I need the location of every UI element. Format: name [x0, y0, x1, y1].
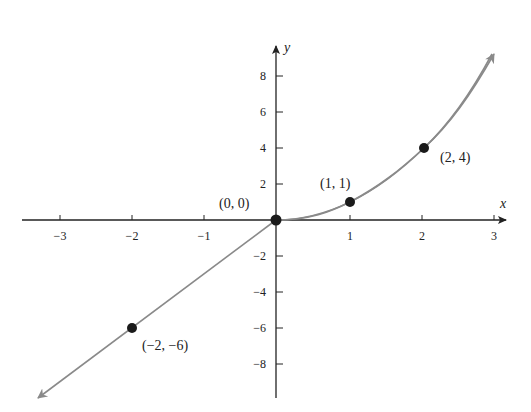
point-2-4	[419, 143, 429, 153]
point-neg2-neg6	[127, 323, 137, 333]
data-points	[127, 143, 429, 333]
y-tick-label: 2	[260, 177, 266, 191]
x-tick-label: −3	[54, 229, 67, 243]
point-1-1	[345, 197, 355, 207]
y-tick-label: 8	[260, 69, 266, 83]
point-label-neg2-neg6: (−2, −6)	[142, 338, 188, 354]
y-axis-label: y	[282, 40, 291, 55]
y-tick-label: −4	[253, 285, 266, 299]
point-origin	[271, 215, 282, 226]
x-tick-label: 2	[419, 229, 425, 243]
function-curve	[38, 54, 494, 398]
point-label-1-1: (1, 1)	[320, 176, 351, 192]
y-tick-label: −2	[253, 249, 266, 263]
x-tick-label: 3	[491, 229, 497, 243]
chart-canvas: −3 −2 −1 1 2 3 8 6 4 2 −2 −4 −6 −8 y x	[0, 0, 531, 412]
x-tick-label: 1	[347, 229, 353, 243]
point-label-origin: (0, 0)	[219, 196, 250, 212]
x-tick-labels: −3 −2 −1 1 2 3	[54, 229, 497, 243]
x-tick-label: −1	[198, 229, 211, 243]
x-axis-label: x	[499, 196, 507, 211]
point-label-2-4: (2, 4)	[440, 150, 471, 166]
y-tick-label: −6	[253, 321, 266, 335]
y-tick-label: 6	[260, 105, 266, 119]
x-tick-label: −2	[126, 229, 139, 243]
y-tick-label: 4	[260, 141, 266, 155]
y-tick-label: −8	[253, 357, 266, 371]
